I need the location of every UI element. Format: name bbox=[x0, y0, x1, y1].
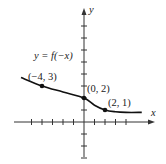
function-graph: (−4, 3)(0, 2)(2, 1) x y y = f(−x) bbox=[0, 0, 166, 164]
x-axis-label: x bbox=[150, 107, 156, 118]
labeled-points: (−4, 3)(0, 2)(2, 1) bbox=[28, 71, 131, 112]
point-label: (−4, 3) bbox=[28, 71, 57, 83]
y-axis-label: y bbox=[88, 4, 94, 15]
data-point-marker bbox=[40, 84, 45, 89]
data-point-marker bbox=[103, 108, 108, 113]
point-label: (2, 1) bbox=[108, 97, 131, 109]
data-point-marker bbox=[82, 96, 87, 101]
x-axis-arrow-icon bbox=[148, 120, 155, 125]
point-label: (0, 2) bbox=[87, 83, 110, 95]
y-axis-arrow-icon bbox=[82, 8, 87, 15]
function-label: y = f(−x) bbox=[33, 50, 73, 62]
axes bbox=[14, 12, 151, 157]
